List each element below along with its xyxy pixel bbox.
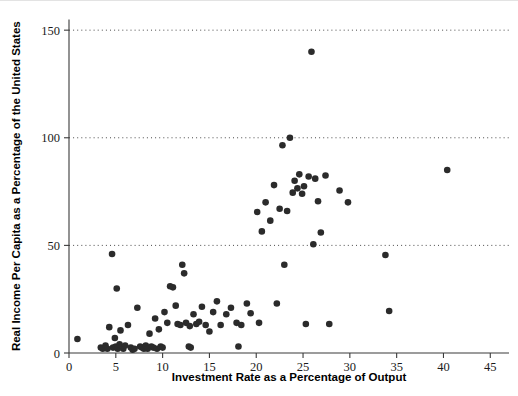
data-point: [254, 209, 261, 216]
data-point: [186, 323, 193, 330]
data-point: [308, 48, 315, 55]
data-point: [310, 241, 317, 248]
data-point: [122, 342, 129, 349]
data-point: [112, 335, 119, 342]
data-point: [223, 311, 230, 318]
data-point: [291, 178, 298, 185]
data-point: [294, 185, 301, 192]
data-point: [247, 310, 254, 317]
data-point: [199, 303, 206, 310]
data-point: [134, 305, 141, 312]
data-point: [170, 284, 177, 291]
data-point: [159, 344, 166, 351]
data-point: [315, 198, 322, 205]
data-point: [284, 208, 291, 215]
x-tick-label-45: 45: [484, 360, 497, 374]
data-point: [181, 270, 188, 277]
y-tick-label-150: 150: [41, 24, 60, 38]
y-tick-label-50: 50: [48, 239, 61, 253]
data-point: [267, 217, 274, 224]
data-point: [303, 321, 310, 328]
data-point: [172, 302, 179, 309]
data-point: [106, 324, 113, 331]
scatter-plot-canvas: 051015202530354045 050100150 Investment …: [0, 1, 518, 396]
data-point: [190, 311, 197, 318]
x-tick-label-40: 40: [437, 360, 450, 374]
data-point: [113, 285, 120, 292]
axes-group: [69, 19, 509, 353]
scatter-plot-figure: 051015202530354045 050100150 Investment …: [0, 0, 518, 396]
y-axis-title: Real Income Per Capita as a Percentage o…: [10, 21, 22, 351]
data-point: [276, 205, 283, 212]
data-point: [206, 328, 213, 335]
data-point: [156, 326, 163, 333]
data-point: [279, 142, 286, 149]
data-point: [271, 182, 278, 189]
data-point: [177, 322, 184, 329]
data-point: [301, 183, 308, 190]
data-point: [244, 300, 251, 307]
data-point: [146, 330, 153, 337]
data-point: [281, 261, 288, 268]
data-point: [109, 251, 116, 258]
data-point: [74, 336, 81, 343]
data-point: [164, 320, 171, 327]
y-axis-ticks: 050100150: [41, 24, 69, 361]
data-point: [210, 309, 217, 316]
data-point: [305, 173, 312, 180]
x-tick-label-5: 5: [113, 360, 119, 374]
data-point: [296, 171, 303, 178]
data-point: [202, 322, 209, 329]
data-point: [382, 252, 389, 259]
data-point: [345, 199, 352, 206]
data-point: [444, 167, 451, 174]
data-point: [217, 322, 224, 329]
data-point: [131, 345, 138, 352]
data-point: [312, 175, 319, 182]
data-point: [125, 322, 132, 329]
data-point: [287, 134, 294, 141]
data-point: [214, 298, 221, 305]
data-points-group: [74, 48, 450, 353]
data-point: [228, 305, 235, 312]
data-point: [104, 345, 111, 352]
x-axis-title: Investment Rate as a Percentage of Outpu…: [172, 371, 407, 383]
data-point: [179, 261, 186, 268]
data-point: [152, 315, 159, 322]
data-point: [238, 322, 245, 329]
data-point: [274, 300, 281, 307]
y-tick-label-100: 100: [41, 131, 60, 145]
y-tick-label-0: 0: [54, 347, 60, 361]
data-point: [196, 318, 203, 325]
data-point: [336, 187, 343, 194]
data-point: [318, 229, 325, 236]
data-point: [259, 228, 266, 235]
data-point: [322, 172, 329, 179]
data-point: [299, 190, 306, 197]
data-point: [326, 321, 333, 328]
data-point: [235, 343, 242, 350]
x-tick-label-0: 0: [66, 360, 72, 374]
data-point: [262, 199, 269, 206]
data-point: [386, 308, 393, 315]
data-point: [256, 320, 263, 327]
data-point: [117, 327, 124, 334]
data-point: [187, 344, 194, 351]
x-tick-label-10: 10: [156, 360, 169, 374]
data-point: [161, 309, 168, 316]
